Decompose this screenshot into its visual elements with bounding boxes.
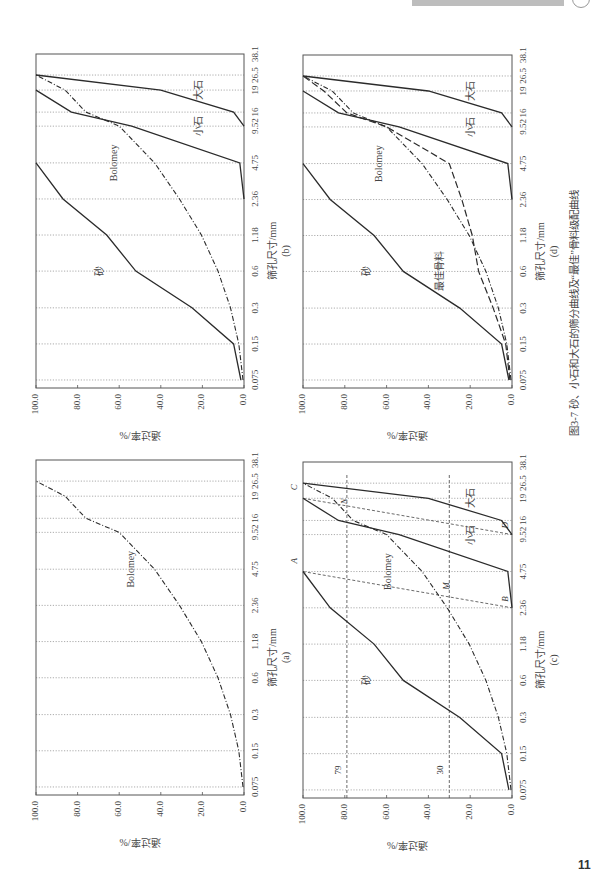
x-tick-label: 38.1 — [518, 454, 528, 470]
y-tick-label: 100.0 — [297, 804, 307, 825]
x-tick-label: 26.5 — [250, 67, 260, 83]
x-tick-label: 1.18 — [518, 227, 528, 243]
x-tick-label: 38.1 — [250, 46, 260, 62]
panel-label: (d) — [548, 246, 560, 258]
x-axis-title: 筛孔尺寸/mm — [534, 631, 546, 690]
series-line — [303, 76, 510, 380]
y-tick-label: 40.0 — [422, 804, 432, 820]
y-tick-label: 100.0 — [297, 394, 307, 415]
y-tick-label: 80.0 — [72, 801, 82, 817]
x-tick-label: 16 — [250, 107, 260, 117]
panel-label: (a) — [280, 652, 292, 663]
x-tick-label: 0.15 — [250, 336, 260, 352]
x-tick-label: 2.36 — [518, 191, 528, 207]
y-tick-label: 0.0 — [238, 801, 248, 813]
y-tick-label: 0.0 — [506, 804, 516, 816]
plot-frame — [36, 460, 244, 795]
x-tick-label: 26.5 — [250, 473, 260, 489]
x-tick-label: 26.5 — [518, 68, 528, 84]
y-tick-label: 80.0 — [339, 394, 349, 410]
y-axis-title: 通过率/% — [387, 840, 428, 852]
x-tick-label: 2.36 — [250, 597, 260, 613]
y-tick-label: 0.0 — [238, 394, 248, 406]
series-annotation: 砂 — [93, 266, 105, 276]
figure-canvas: 0.0750.150.30.61.182.364.759.52161926.53… — [0, 0, 595, 872]
point-label-B: B — [500, 596, 510, 602]
x-axis-title: 筛孔尺寸/mm — [534, 222, 546, 281]
series-line — [303, 76, 511, 380]
chart-panel-c: 0.0750.150.30.61.182.364.759.52161926.53… — [289, 454, 560, 852]
x-tick-label: 2.36 — [518, 599, 528, 615]
chart-panel-b: 0.0750.150.30.61.182.364.759.52161926.53… — [30, 46, 292, 442]
point-label-A: A — [289, 558, 299, 565]
y-axis-title: 通过率/% — [119, 430, 160, 442]
reference-value: 30 — [435, 765, 445, 775]
y-tick-label: 60.0 — [113, 394, 123, 410]
x-tick-label: 16 — [518, 108, 528, 118]
x-tick-label: 0.3 — [518, 302, 528, 314]
x-tick-label: 0.6 — [250, 672, 260, 684]
point-label-C: C — [289, 483, 299, 490]
y-tick-label: 20.0 — [464, 804, 474, 820]
point-label-M: M — [441, 582, 451, 591]
series-annotation: 小石 — [193, 116, 204, 136]
x-tick-label: 9.52 — [518, 527, 528, 543]
y-tick-label: 80.0 — [72, 394, 82, 410]
y-tick-label: 0.0 — [506, 394, 516, 406]
x-tick-label: 1.18 — [250, 633, 260, 649]
x-tick-label: 9.52 — [518, 119, 528, 135]
x-tick-label: 4.75 — [250, 561, 260, 577]
x-tick-label: 4.75 — [518, 563, 528, 579]
x-tick-label: 2.36 — [250, 191, 260, 207]
x-tick-label: 19 — [518, 493, 528, 503]
series-annotation: 大石 — [464, 488, 476, 508]
series-annotation: Bolomey — [125, 551, 136, 588]
x-tick-label: 38.1 — [518, 47, 528, 63]
x-tick-label: 19 — [250, 85, 260, 95]
figure-caption: 图3-7 砂、小石和大石的筛分曲线及“最佳”骨料级配曲线 — [566, 190, 581, 436]
x-tick-label: 9.52 — [250, 118, 260, 134]
series-line — [36, 481, 243, 787]
plot-frame — [303, 55, 512, 388]
y-tick-label: 20.0 — [464, 394, 474, 410]
construction-line — [303, 572, 512, 608]
y-tick-label: 40.0 — [155, 801, 165, 817]
x-tick-label: 26.5 — [518, 475, 528, 491]
y-tick-label: 100.0 — [30, 801, 40, 822]
y-tick-label: 80.0 — [339, 804, 349, 820]
x-tick-label: 4.75 — [518, 155, 528, 171]
x-axis-title: 筛孔尺寸/mm — [266, 222, 278, 281]
x-axis-title: 筛孔尺寸/mm — [266, 628, 278, 687]
x-tick-label: 0.3 — [250, 302, 260, 314]
series-line — [303, 483, 512, 534]
y-axis-title: 通过率/% — [387, 430, 428, 442]
x-tick-label: 19 — [250, 491, 260, 501]
series-annotation: Bolomey — [382, 553, 393, 590]
panel-label: (b) — [280, 245, 292, 257]
x-tick-label: 16 — [518, 515, 528, 525]
x-tick-label: 0.6 — [250, 265, 260, 277]
series-annotation: 小石 — [465, 117, 476, 137]
x-tick-label: 0.075 — [250, 776, 260, 797]
y-tick-label: 60.0 — [381, 804, 391, 820]
plot-frame — [36, 54, 244, 388]
construction-line — [303, 498, 512, 534]
y-tick-label: 40.0 — [155, 394, 165, 410]
series-annotation: 砂 — [360, 675, 372, 685]
x-tick-label: 0.075 — [518, 779, 528, 800]
reference-value: 79 — [333, 765, 343, 775]
series-line — [36, 75, 243, 380]
series-annotation: Bolomey — [108, 145, 119, 182]
x-tick-label: 16 — [250, 513, 260, 523]
x-tick-label: 0.3 — [518, 711, 528, 723]
chart-panel-a: 0.0750.150.30.61.182.364.759.52161926.53… — [30, 452, 292, 849]
series-annotation: 大石 — [192, 80, 204, 100]
page-number: 11 — [578, 858, 591, 872]
plot-frame — [303, 462, 512, 798]
x-tick-label: 0.3 — [250, 708, 260, 720]
x-tick-label: 0.075 — [250, 369, 260, 390]
series-annotation: Bolomey — [373, 145, 384, 182]
y-tick-label: 20.0 — [196, 394, 206, 410]
series-annotation: 小石 — [465, 525, 476, 545]
x-tick-label: 19 — [518, 86, 528, 96]
